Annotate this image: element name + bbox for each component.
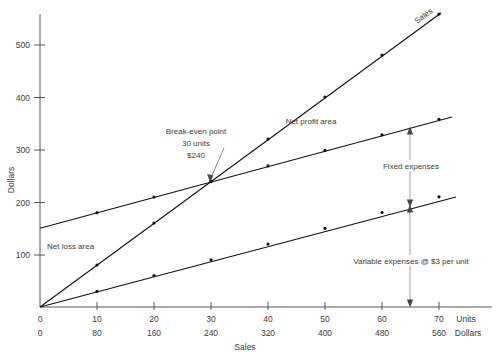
x-dollars-tick-240: 240 <box>204 328 218 338</box>
y-axis-ticks: 500 400 300 200 100 <box>16 40 45 260</box>
series-variable-expenses <box>40 195 456 307</box>
variable-expense-line <box>40 197 456 307</box>
x-dollars-tick-320: 320 <box>261 328 275 338</box>
y-tick-label-500: 500 <box>16 40 30 50</box>
x-units-tick-40: 40 <box>263 314 273 324</box>
y-tick-label-100: 100 <box>16 250 30 260</box>
total-expense-line <box>40 117 452 228</box>
x-units-tick-70: 70 <box>434 314 444 324</box>
net-profit-area-label: Net profit area <box>286 117 337 126</box>
x-dollars-tick-480: 480 <box>375 328 389 338</box>
x-dollars-tick-560: 560 <box>432 328 446 338</box>
variable-expenses-label: Variable expenses @ $3 per unit <box>353 257 469 266</box>
x-dollars-tick-400: 400 <box>318 328 332 338</box>
fixed-expenses-label: Fixed expenses <box>383 162 439 171</box>
y-axis-title: Dollars <box>6 167 16 193</box>
y-tick-label-400: 400 <box>16 93 30 103</box>
x-dollars-tick-80: 80 <box>92 328 102 338</box>
break-even-label-line2: 30 units <box>182 139 210 148</box>
x-units-tick-20: 20 <box>149 314 159 324</box>
break-even-leader-line <box>210 148 224 180</box>
x-axis-ticks: 0 10 20 30 40 50 60 70 0 80 160 240 320 … <box>38 302 482 352</box>
x-axis-title: Sales <box>234 342 255 352</box>
net-loss-area-label: Net loss area <box>47 242 95 251</box>
x-units-tick-50: 50 <box>320 314 330 324</box>
x-dollars-tick-160: 160 <box>147 328 161 338</box>
break-even-label-line1: Break-even point <box>166 127 227 136</box>
x-units-tick-0: 0 <box>38 314 43 324</box>
break-even-chart: 500 400 300 200 100 Dollars 0 10 20 30 4… <box>0 0 502 360</box>
chart-svg: 500 400 300 200 100 Dollars 0 10 20 30 4… <box>0 0 502 360</box>
series-total-expenses <box>40 117 452 228</box>
break-even-label-line3: $240 <box>187 151 205 160</box>
y-tick-label-200: 200 <box>16 198 30 208</box>
x-units-tick-30: 30 <box>206 314 216 324</box>
y-tick-label-300: 300 <box>16 145 30 155</box>
x-units-tick-10: 10 <box>92 314 102 324</box>
fixed-expenses-dimension: Fixed expenses <box>377 127 445 207</box>
x-axis-units-row-label: Units <box>456 314 475 324</box>
x-dollars-tick-0: 0 <box>38 328 43 338</box>
sales-line-label: Sales <box>413 7 434 26</box>
break-even-annotation: Break-even point 30 units $240 <box>166 127 227 182</box>
variable-expenses-dimension: Variable expenses @ $3 per unit <box>329 205 492 307</box>
x-axis-dollars-row-label: Dollars <box>455 328 481 338</box>
variable-expenses-arrowhead-bottom <box>407 300 413 308</box>
x-units-tick-60: 60 <box>377 314 387 324</box>
